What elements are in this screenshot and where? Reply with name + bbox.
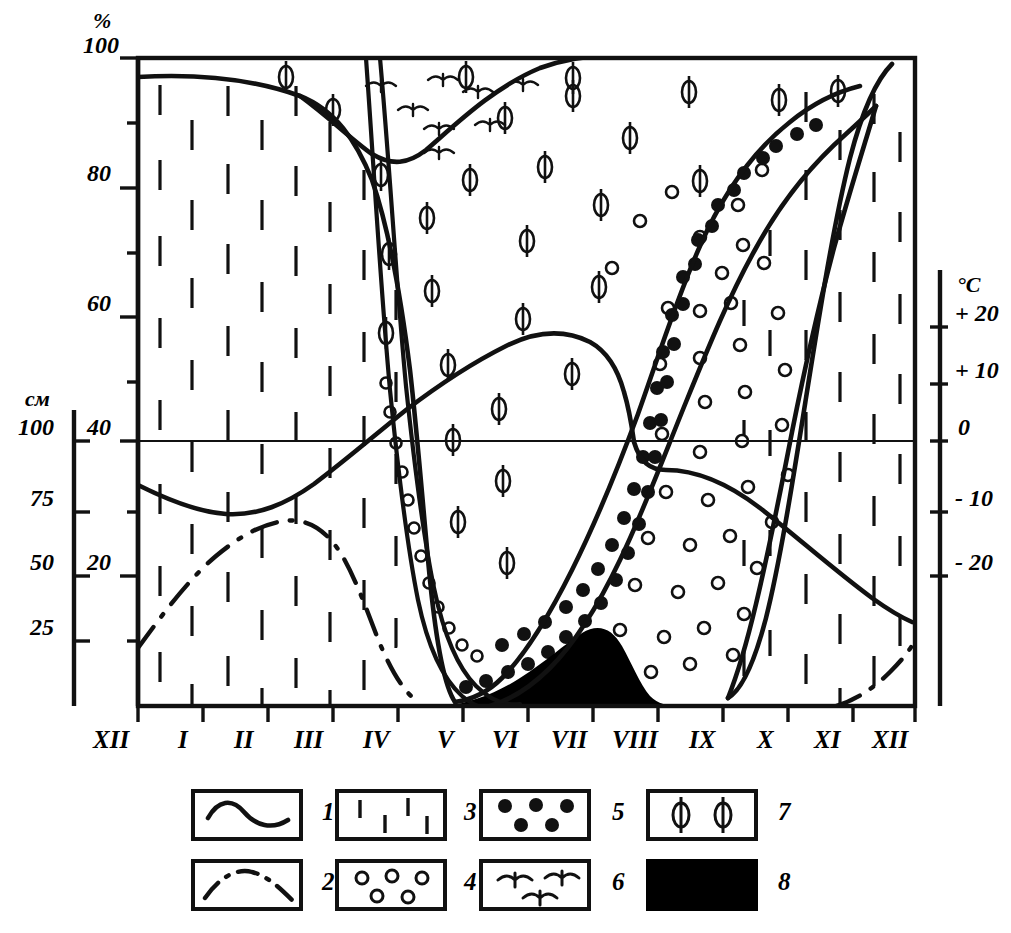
legend-swatch-4 <box>337 861 445 909</box>
legend-number-5: 5 <box>612 798 625 826</box>
x-label-month-2: II <box>234 726 253 754</box>
axis-left-percent-ticks <box>120 58 138 706</box>
legend-swatch-8 <box>648 861 756 909</box>
legend-swatch-6 <box>481 861 589 909</box>
axis-temp-tick-p20: + 20 <box>955 300 999 327</box>
axis-cm-tick-50: 50 <box>30 549 54 576</box>
legend-swatch-2 <box>193 861 301 909</box>
legend-icon-phi-marks <box>673 797 731 833</box>
axis-temp-tick-m20: - 20 <box>955 549 993 576</box>
axis-right-temp <box>930 270 948 706</box>
legend-icon-filled-dots <box>498 798 574 832</box>
x-label-month-1: I <box>178 726 188 754</box>
axis-temp-tick-0: 0 <box>958 414 970 441</box>
legend-number-3: 3 <box>464 798 477 826</box>
axis-cm-tick-25: 25 <box>30 614 54 641</box>
x-label-month-0: XII <box>93 726 129 754</box>
axis-percent-tick-100: 100 <box>83 32 119 59</box>
axis-percent-tick-40: 40 <box>87 414 111 441</box>
legend-swatch-7 <box>648 791 756 839</box>
legend-number-6: 6 <box>612 868 625 896</box>
legend-icon-vertical-ticks <box>360 798 427 834</box>
x-label-month-9: IX <box>689 726 715 754</box>
axis-cm-tick-75: 75 <box>30 485 54 512</box>
axis-x-ticks <box>138 706 915 722</box>
axis-temp-unit: °C <box>957 272 980 298</box>
x-label-month-11: XI <box>814 726 840 754</box>
curve-temperature <box>138 333 912 622</box>
legend-number-4: 4 <box>464 868 477 896</box>
axis-cm-unit: см <box>25 386 50 412</box>
figure-root: % 100 80 60 40 20 см 100 75 50 25 °C + 2… <box>0 0 1011 933</box>
axis-percent-tick-60: 60 <box>87 290 111 317</box>
legend-icon-open-circles <box>356 870 428 903</box>
plot-frame <box>138 58 915 706</box>
legend-swatch-3 <box>337 791 445 839</box>
legend-number-8: 8 <box>778 868 791 896</box>
axis-temp-tick-m10: - 10 <box>955 485 993 512</box>
x-label-month-4: IV <box>363 726 389 754</box>
legend-number-7: 7 <box>778 798 791 826</box>
legend-number-2: 2 <box>322 868 335 896</box>
axis-temp-tick-p10: + 10 <box>955 357 999 384</box>
legend-icon-bird-marks <box>498 871 579 905</box>
legend-icon-dash-dot-curve <box>205 871 292 900</box>
legend-icon-solid-curve <box>208 803 288 826</box>
x-label-month-12: XII <box>872 726 908 754</box>
axis-percent-tick-20: 20 <box>87 549 111 576</box>
x-label-month-5: V <box>437 726 454 754</box>
curve-snow-depth <box>138 520 418 702</box>
axis-percent-tick-80: 80 <box>87 160 111 187</box>
x-label-month-7: VII <box>551 726 587 754</box>
axis-cm-tick-100: 100 <box>18 414 54 441</box>
chart-svg <box>0 0 1011 933</box>
axis-percent-unit: % <box>93 8 111 34</box>
legend-number-1: 1 <box>322 798 335 826</box>
x-label-month-6: VI <box>492 726 518 754</box>
x-label-month-10: X <box>757 726 774 754</box>
x-label-month-3: III <box>294 726 323 754</box>
curve-open-circle-region-right <box>728 106 876 698</box>
x-label-month-8: VIII <box>612 726 658 754</box>
